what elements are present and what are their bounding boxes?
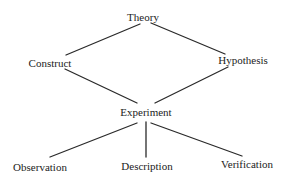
node-verification: Verification — [221, 159, 273, 170]
edge-theory-construct — [66, 24, 140, 55]
edge-experiment-observation — [50, 123, 137, 157]
edge-experiment-verification — [151, 123, 242, 156]
edge-theory-hypothesis — [151, 23, 225, 54]
node-description: Description — [121, 161, 172, 172]
theory-experiment-diagram: Theory Construct Hypothesis Experiment O… — [0, 0, 286, 181]
diagram-edges — [0, 0, 286, 181]
edge-construct-experiment — [65, 69, 137, 103]
node-theory: Theory — [127, 12, 159, 23]
node-construct: Construct — [29, 58, 72, 69]
node-observation: Observation — [13, 162, 67, 173]
node-experiment: Experiment — [120, 107, 171, 118]
edge-hypothesis-experiment — [155, 67, 228, 103]
node-hypothesis: Hypothesis — [218, 55, 268, 66]
